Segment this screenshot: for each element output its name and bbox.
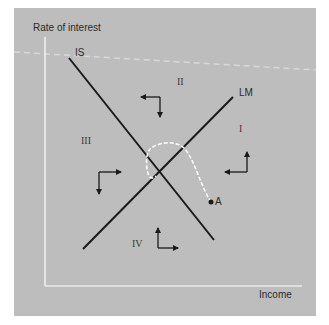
y-axis-label: Rate of interest	[33, 23, 101, 33]
is-lm-diagram	[0, 0, 329, 325]
x-axis-label: Income	[259, 290, 292, 300]
dashed-reference-line	[14, 52, 316, 70]
region-i-label: I	[239, 124, 242, 134]
region-iii-label: III	[81, 136, 91, 146]
arrow-pair-region-iii-icon	[99, 172, 121, 194]
is-curve-label: IS	[75, 48, 84, 58]
lm-curve-label: LM	[239, 88, 253, 98]
arrow-pair-region-ii-icon	[141, 97, 160, 117]
lm-curve	[83, 97, 233, 249]
arrow-pair-region-iv-icon	[158, 228, 178, 248]
region-iv-label: IV	[132, 239, 143, 249]
region-ii-label: II	[177, 77, 184, 87]
point-a-marker	[209, 200, 214, 205]
point-a-label: A	[215, 197, 222, 207]
is-curve	[69, 58, 214, 240]
arrow-pair-region-i-icon	[225, 152, 247, 172]
